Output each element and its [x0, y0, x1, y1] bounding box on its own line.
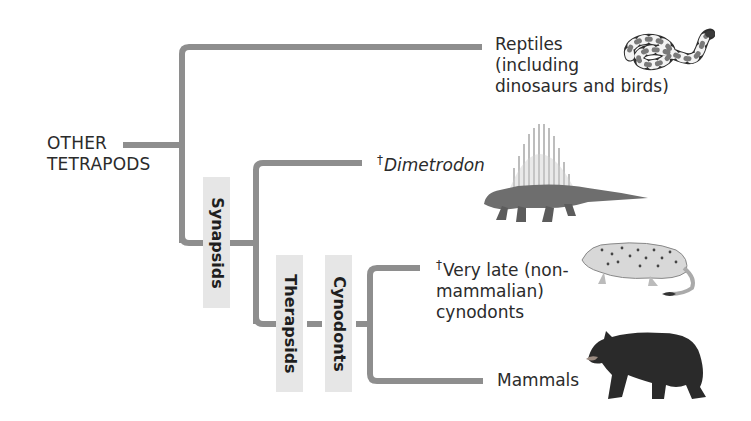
clade-therapsids: Therapsids — [276, 255, 303, 392]
cynodont-icon — [580, 238, 710, 298]
synapsid-lower-branch — [182, 150, 203, 243]
taxon-dimetrodon: †Dimetrodon — [377, 150, 485, 176]
extinct-dagger-icon: † — [377, 153, 383, 167]
bear-icon — [582, 325, 717, 405]
clade-label-cynodonts: Cynodonts — [329, 276, 348, 372]
late-cynodonts-line3: cynodonts — [436, 302, 569, 323]
late-cynodont-branch — [370, 268, 420, 324]
reptiles-line3: dinosaurs and birds) — [495, 76, 669, 97]
mammal-branch — [370, 324, 483, 381]
clade-label-therapsids: Therapsids — [280, 274, 299, 373]
root-label-line2: TETRAPODS — [47, 154, 151, 175]
clade-synapsids: Synapsids — [203, 177, 230, 308]
mammals-label: Mammals — [497, 370, 579, 390]
therapsid-lower-branch — [256, 243, 276, 324]
taxon-mammals: Mammals — [497, 370, 579, 391]
snake-icon — [620, 26, 715, 76]
root-label: OTHER TETRAPODS — [47, 133, 151, 175]
dimetrodon-icon — [478, 120, 658, 230]
root-label-line1: OTHER — [47, 133, 151, 154]
late-cynodonts-line1: Very late (non- — [443, 260, 569, 280]
late-cynodonts-line2: mammalian) — [436, 281, 569, 302]
clade-cynodonts: Cynodonts — [325, 255, 352, 392]
clade-label-synapsids: Synapsids — [207, 197, 226, 289]
extinct-dagger-icon: † — [436, 258, 442, 272]
taxon-late-cynodonts: †Very late (non- mammalian) cynodonts — [436, 255, 569, 323]
dimetrodon-name: Dimetrodon — [384, 155, 485, 175]
phylogeny-diagram: OTHER TETRAPODS Synapsids Therapsids Cyn… — [0, 0, 751, 421]
